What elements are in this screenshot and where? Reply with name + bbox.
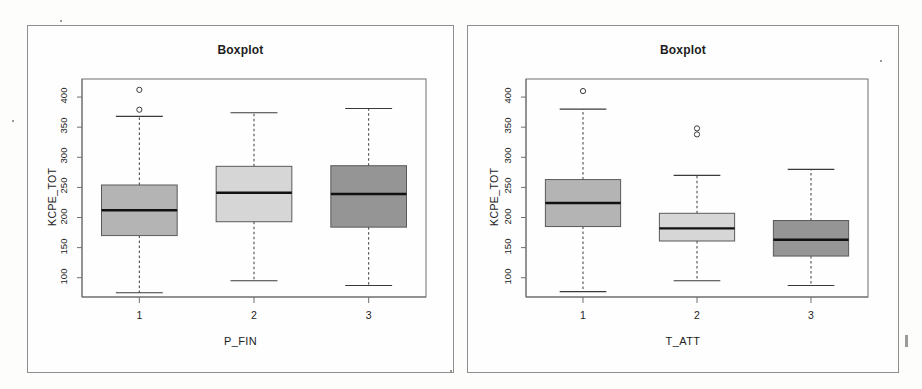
scan-artifact bbox=[880, 60, 882, 62]
box-group bbox=[659, 126, 734, 281]
outlier-point bbox=[694, 132, 699, 137]
y-tick-label: 350 bbox=[502, 115, 513, 137]
boxplot-canvas-left bbox=[28, 26, 455, 374]
y-tick-label: 200 bbox=[502, 205, 513, 227]
x-tick-label: 3 bbox=[354, 309, 384, 321]
y-tick-label: 250 bbox=[58, 175, 69, 197]
outlier-point bbox=[694, 126, 699, 131]
y-tick-label: 100 bbox=[58, 265, 69, 287]
y-tick-label: 400 bbox=[58, 85, 69, 107]
box-group bbox=[101, 87, 177, 293]
scan-artifact bbox=[60, 20, 62, 22]
y-tick-label: 150 bbox=[502, 235, 513, 257]
outlier-point bbox=[137, 87, 142, 92]
scan-artifact bbox=[450, 370, 452, 372]
screenshot-root: Boxplot KCPE_TOT P_FIN 40035030025020015… bbox=[0, 0, 922, 389]
box-group bbox=[216, 113, 292, 281]
box-iqr bbox=[216, 166, 292, 221]
outlier-point bbox=[580, 88, 585, 93]
y-tick-label: 300 bbox=[58, 145, 69, 167]
x-tick-label: 1 bbox=[568, 309, 598, 321]
box-group bbox=[545, 88, 620, 291]
y-tick-label: 300 bbox=[502, 145, 513, 167]
x-tick-label: 2 bbox=[682, 309, 712, 321]
y-tick-label: 100 bbox=[502, 265, 513, 287]
scan-artifact bbox=[905, 335, 908, 347]
chart-panel-right: Boxplot KCPE_TOT T_ATT 40035030025020015… bbox=[467, 25, 899, 373]
x-tick-label: 3 bbox=[796, 309, 826, 321]
y-tick-label: 200 bbox=[58, 205, 69, 227]
y-tick-label: 250 bbox=[502, 175, 513, 197]
box-group bbox=[331, 109, 407, 286]
x-tick-label: 2 bbox=[239, 309, 269, 321]
outlier-point bbox=[137, 107, 142, 112]
box-iqr bbox=[331, 166, 407, 227]
x-tick-label: 1 bbox=[124, 309, 154, 321]
box-iqr bbox=[659, 213, 734, 241]
y-tick-label: 400 bbox=[502, 85, 513, 107]
box-iqr bbox=[773, 221, 848, 257]
boxplot-canvas-right bbox=[468, 26, 900, 374]
box-group bbox=[773, 169, 848, 285]
y-tick-label: 150 bbox=[58, 235, 69, 257]
chart-panel-left: Boxplot KCPE_TOT P_FIN 40035030025020015… bbox=[27, 25, 454, 373]
scan-artifact bbox=[12, 120, 14, 122]
y-tick-label: 350 bbox=[58, 115, 69, 137]
